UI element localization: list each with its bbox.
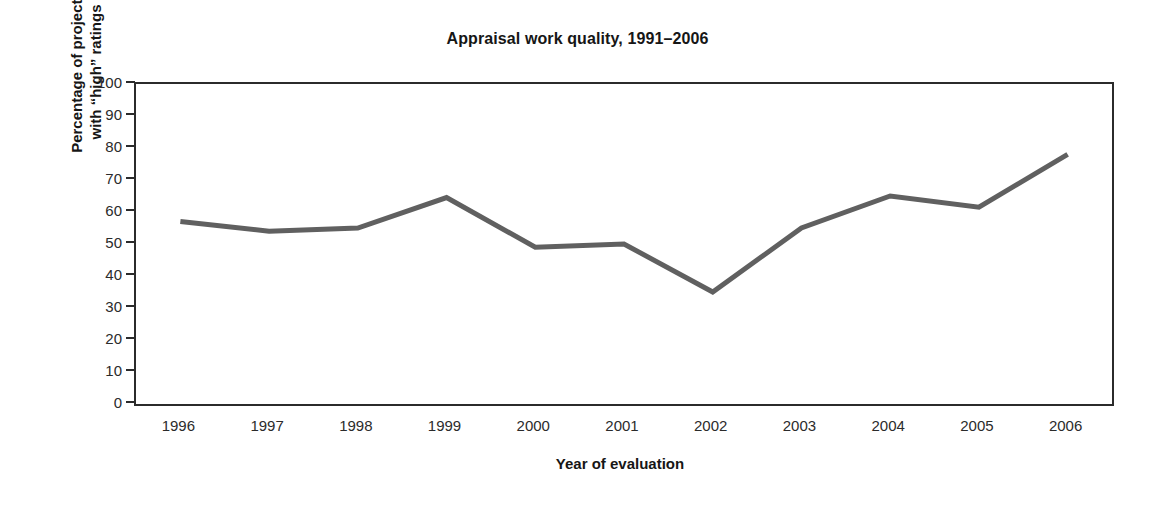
y-tick-label: 90	[78, 106, 122, 123]
data-line-appraisal-quality	[180, 154, 1067, 292]
y-tick-label: 100	[78, 74, 122, 91]
x-tick-label: 2004	[853, 417, 923, 434]
x-tick-label: 1999	[410, 417, 480, 434]
y-tick-label: 80	[78, 138, 122, 155]
x-tick-label: 2001	[587, 417, 657, 434]
x-axis-title: Year of evaluation	[130, 455, 1110, 472]
x-tick-label: 1997	[232, 417, 302, 434]
y-tick-label: 60	[78, 202, 122, 219]
y-tick-label: 50	[78, 234, 122, 251]
x-tick-label: 2003	[764, 417, 834, 434]
y-tick-label: 10	[78, 362, 122, 379]
y-tick-label: 20	[78, 330, 122, 347]
x-tick-label: 1998	[321, 417, 391, 434]
x-tick-label: 2005	[942, 417, 1012, 434]
y-tick-label: 70	[78, 170, 122, 187]
line-series-svg	[136, 84, 1112, 404]
chart-figure: Appraisal work quality, 1991–2006 Percen…	[0, 0, 1155, 507]
x-tick-label: 1996	[143, 417, 213, 434]
x-tick-label: 2006	[1031, 417, 1101, 434]
y-tick-label: 30	[78, 298, 122, 315]
chart-title: Appraisal work quality, 1991–2006	[0, 30, 1155, 48]
y-tick-label: 0	[78, 394, 122, 411]
y-tick-label: 40	[78, 266, 122, 283]
x-tick-label: 2000	[498, 417, 568, 434]
x-tick-label: 2002	[676, 417, 746, 434]
plot-area	[134, 82, 1114, 406]
